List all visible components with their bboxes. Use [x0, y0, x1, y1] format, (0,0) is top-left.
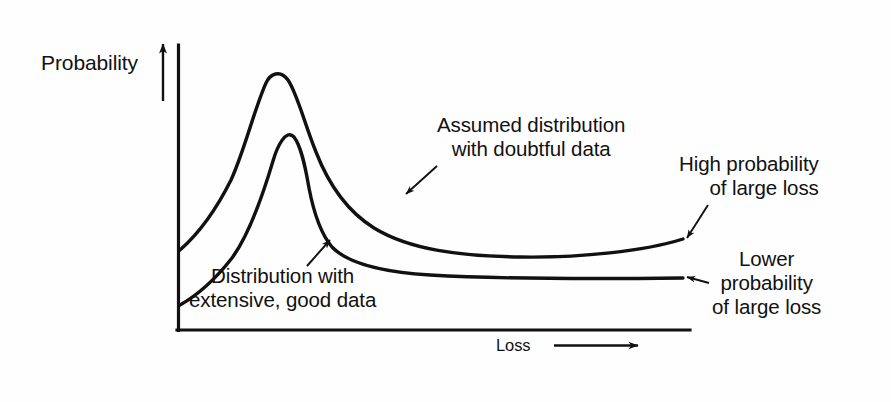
probability-loss-figure: Probability Assumed distribution with do…	[0, 0, 891, 402]
annotation-high-probability-of-large-loss: High probability of large loss	[679, 152, 819, 200]
annotation-assumed-distribution: Assumed distribution with doubtful data	[437, 113, 625, 161]
annotation-lower-probability-of-large-loss: Lower probability of large loss	[712, 247, 821, 320]
x-axis-title: Loss	[496, 336, 530, 355]
leader-line-lower-probability	[687, 277, 709, 283]
y-axis-title: Probability	[41, 51, 138, 76]
leader-line-assumed-distribution	[406, 166, 437, 194]
leader-line-high-probability	[687, 205, 708, 238]
leader-line-good-data	[307, 240, 330, 266]
curve-assumed-distribution	[180, 74, 683, 257]
annotation-distribution-extensive-good-data: Distribution with extensive, good data	[189, 264, 376, 312]
